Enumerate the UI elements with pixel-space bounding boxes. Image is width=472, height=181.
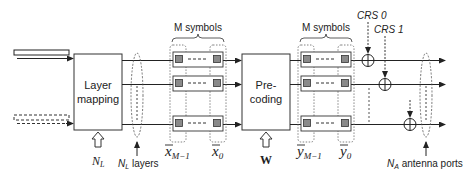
precoding-label-1: Pre-: [256, 79, 277, 91]
nl-layers-label: NL layers: [118, 158, 159, 170]
brace-icon: [300, 34, 352, 42]
codeword-input-1: [14, 50, 73, 59]
x-symbols-group: M symbols: [170, 22, 226, 142]
x-last-label: xM−1: [164, 143, 190, 161]
crs0-adder: [362, 22, 374, 67]
layer-mapping-precoding-diagram: Layer mapping NL NL layers M symbols: [0, 0, 472, 181]
codeword-input-2: [14, 115, 73, 124]
crs-n-adder: [404, 100, 416, 131]
m-symbols-y-label: M symbols: [302, 22, 350, 33]
w-matrix-label: W: [260, 153, 272, 167]
brace-icon: [172, 34, 224, 42]
x-first-label: x0: [211, 143, 224, 161]
layer-lines: [122, 61, 241, 125]
antenna-ports-ellipse: [420, 53, 432, 156]
y-symbols-group: M symbols: [298, 22, 354, 142]
y-last-label: yM−1: [295, 143, 322, 161]
precoding-block: Pre- coding: [242, 54, 290, 130]
m-symbols-x-label: M symbols: [174, 22, 222, 33]
precoding-label-2: coding: [250, 93, 282, 105]
antenna-lines: [290, 61, 445, 125]
nl-input-label: NL: [91, 154, 105, 169]
crs0-label: CRS 0: [357, 10, 387, 21]
nl-input-arrow-icon: [92, 132, 104, 147]
w-input-arrow-icon: [260, 132, 272, 147]
crs1-adder: [379, 36, 391, 91]
layer-mapping-block: Layer mapping: [74, 54, 122, 130]
y-first-label: y0: [338, 143, 352, 161]
nl-layers-ellipse: [131, 53, 143, 156]
layer-mapping-label-1: Layer: [84, 79, 112, 91]
antenna-ports-label: NA antenna ports: [387, 158, 463, 170]
layer-mapping-label-2: mapping: [77, 93, 119, 105]
crs1-label: CRS 1: [374, 24, 403, 35]
